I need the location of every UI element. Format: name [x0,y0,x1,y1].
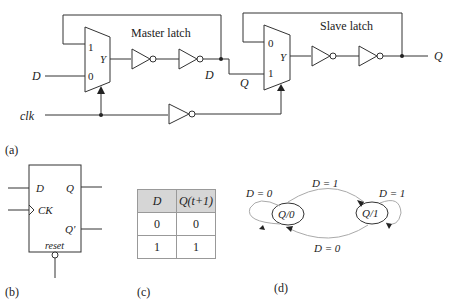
svg-text:Q/0: Q/0 [278,208,295,220]
table-header: D [138,190,177,213]
svg-text:D = 1: D = 1 [378,187,405,199]
svg-text:0: 0 [268,37,274,49]
svg-text:D: D [204,68,214,82]
input-clk-label: clk [20,109,35,123]
svg-text:D = 1: D = 1 [311,177,338,189]
master-mux [85,27,110,92]
svg-text:1: 1 [268,67,274,79]
svg-text:(a): (a) [5,143,18,157]
svg-text:(b): (b) [5,285,19,299]
output-q-label: Q [434,49,443,63]
master-inverter-1 [132,49,150,69]
svg-text:reset: reset [45,240,64,251]
svg-text:1: 1 [88,41,94,53]
master-inverter-2 [179,49,197,69]
table-row: 1 1 [138,236,216,259]
svg-text:D = 0: D = 0 [313,242,341,254]
svg-text:Q/1: Q/1 [362,207,379,219]
svg-text:D = 0: D = 0 [245,187,273,199]
panel-a-circuit: Master latch Slave latch 1 0 Y 0 1 Y D c… [5,13,443,157]
flip-flop-diagram: Master latch Slave latch 1 0 Y 0 1 Y D c… [0,0,453,300]
svg-text:CK: CK [38,204,53,216]
svg-text:(d): (d) [274,281,288,295]
input-d-label: D [31,69,41,83]
panel-b-symbol: D CK Q Q' reset (b) [5,165,102,299]
slave-latch-title: Slave latch [320,19,373,33]
master-latch-title: Master latch [131,26,191,40]
svg-text:0: 0 [88,70,94,82]
truth-table: D Q(t+1) 0 0 1 1 [137,189,216,259]
panel-d-state-diagram: Q/0 Q/1 D = 0 D = 1 D = 1 D = 0 (d) [245,177,405,295]
table-header: Q(t+1) [177,190,216,213]
svg-text:Q: Q [240,76,249,90]
svg-text:Q: Q [66,182,74,194]
svg-text:(c): (c) [137,285,150,299]
svg-text:Q': Q' [65,223,76,235]
table-row: 0 0 [138,213,216,236]
svg-text:D: D [35,182,44,194]
